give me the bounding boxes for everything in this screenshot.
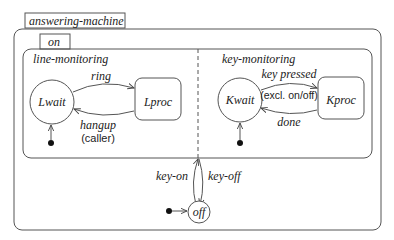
- on-tab: on: [40, 34, 70, 49]
- state-off-label: off: [193, 205, 207, 219]
- title-tab: answering-machine: [25, 13, 125, 28]
- transition-key-off-arrow: [199, 159, 203, 205]
- transition-key-on-arrow: [193, 159, 198, 205]
- statechart-diagram: answering-machine on line-monitoring key…: [0, 0, 394, 240]
- transition-hangup-label: hangup: [80, 118, 116, 132]
- region-label-key-monitoring: key-monitoring: [222, 52, 295, 66]
- initial-pseudostate-line: [48, 140, 54, 146]
- transition-key-on-label: key-on: [156, 169, 188, 183]
- state-lwait: Lwait: [30, 80, 74, 124]
- transition-done-label: done: [277, 115, 301, 129]
- state-lwait-label: Lwait: [37, 95, 66, 109]
- transition-ring-label: ring: [91, 69, 111, 83]
- transition-key-pressed-label: key pressed: [261, 67, 317, 81]
- state-kwait-label: Kwait: [225, 93, 255, 107]
- initial-pseudostate-off: [166, 208, 172, 214]
- transition-hangup-note: (caller): [81, 132, 115, 144]
- state-lproc: Lproc: [135, 78, 181, 120]
- region-label-line-monitoring: line-monitoring: [33, 52, 108, 66]
- title-label: answering-machine: [29, 14, 124, 28]
- transition-hangup-arrow: [74, 109, 134, 115]
- state-kproc: Kproc: [318, 77, 364, 119]
- state-lproc-label: Lproc: [143, 95, 173, 109]
- state-off: off: [188, 201, 210, 223]
- on-label: on: [48, 35, 60, 49]
- state-kwait: Kwait: [218, 78, 262, 122]
- transition-ring-arrow: [73, 84, 134, 92]
- transition-key-pressed-note: (excl. on/off): [260, 89, 318, 101]
- transition-key-off-label: key-off: [208, 169, 242, 183]
- transition-done-arrow: [261, 108, 317, 114]
- initial-pseudostate-key: [237, 140, 243, 146]
- state-kproc-label: Kproc: [325, 93, 356, 107]
